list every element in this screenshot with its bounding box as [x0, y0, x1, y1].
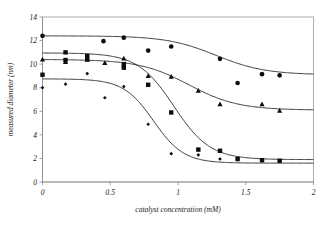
- x-tick-label: 0.5: [106, 188, 116, 197]
- y-tick-label: 10: [30, 60, 38, 69]
- scatter-plot: 02468101214 00.511.52 catalyst concentra…: [0, 0, 331, 227]
- data-point-circle: [277, 73, 282, 78]
- data-point-circle: [218, 57, 223, 62]
- data-point-triangle: [121, 56, 126, 61]
- x-axis-tick-labels: 00.511.52: [41, 188, 316, 197]
- chart-figure: 02468101214 00.511.52 catalyst concentra…: [0, 0, 331, 227]
- data-point-circle: [122, 35, 127, 40]
- y-tick-label: 8: [33, 83, 37, 92]
- y-tick-label: 14: [30, 13, 38, 22]
- data-point-diamond: [196, 153, 200, 157]
- data-point-circle: [260, 72, 265, 77]
- y-tick-label: 12: [30, 36, 38, 45]
- x-tick-label: 0: [41, 188, 45, 197]
- data-point-diamond: [218, 157, 222, 161]
- data-point-circle: [169, 44, 174, 49]
- data-point-square: [122, 65, 126, 69]
- fit-curve-circle: [43, 36, 314, 74]
- data-point-diamond: [85, 72, 89, 76]
- x-tick-label: 2: [312, 188, 316, 197]
- data-point-diamond: [122, 85, 126, 89]
- y-axis-title: measured diameter (nm): [6, 62, 15, 136]
- data-point-diamond: [169, 152, 173, 156]
- data-point-diamond: [103, 96, 107, 100]
- data-point-diamond: [64, 82, 68, 86]
- data-point-square: [63, 50, 67, 54]
- x-tick-label: 1.5: [241, 188, 251, 197]
- data-point-square: [63, 58, 67, 62]
- data-point-square: [40, 73, 44, 77]
- y-axis-tick-labels: 02468101214: [30, 13, 38, 187]
- x-tick-label: 1: [176, 188, 180, 197]
- fitted-curves: [43, 36, 314, 163]
- data-point-circle: [146, 48, 151, 53]
- y-tick-label: 6: [33, 107, 37, 116]
- data-point-square: [146, 83, 150, 87]
- data-point-triangle: [217, 102, 222, 107]
- plot-frame: [43, 17, 314, 182]
- fit-curve-diamond: [43, 79, 314, 163]
- y-tick-label: 0: [33, 178, 37, 187]
- data-point-triangle: [259, 102, 264, 107]
- data-point-diamond: [41, 86, 45, 90]
- fit-curve-square: [43, 53, 314, 160]
- data-point-square: [169, 110, 173, 114]
- data-point-diamond: [146, 122, 150, 126]
- data-point-square: [218, 149, 222, 153]
- data-point-circle: [235, 81, 240, 86]
- x-axis-title: catalyst concentration (mM): [135, 205, 221, 214]
- fit-curve-triangle: [43, 60, 314, 110]
- data-point-triangle: [169, 74, 174, 79]
- data-point-circle: [40, 34, 45, 39]
- data-points: [40, 34, 282, 163]
- y-tick-label: 2: [33, 154, 37, 163]
- data-point-square: [85, 57, 89, 61]
- data-point-circle: [101, 39, 106, 44]
- data-point-square: [196, 147, 200, 151]
- y-tick-label: 4: [33, 131, 37, 140]
